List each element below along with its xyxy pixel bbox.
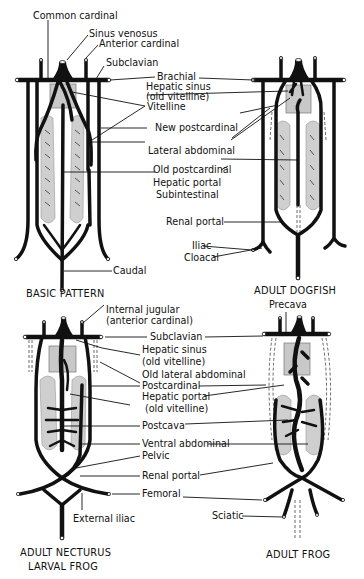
label-renal-portal-bottom: Renal portal xyxy=(142,470,200,481)
title-larval-frog: LARVAL FROG xyxy=(28,561,98,572)
label-precava: Precava xyxy=(269,299,307,310)
label-subclavian-top: Subclavian xyxy=(106,57,158,68)
label-hepatic-portal-bottom: Hepatic portal xyxy=(142,391,210,402)
label-ventral-abdominal: Ventral abdominal xyxy=(142,438,230,449)
frog-panel xyxy=(262,316,344,538)
label-old-vitelline-3: (old vitelline) xyxy=(145,403,208,414)
label-renal-portal-top: Renal portal xyxy=(166,216,224,227)
label-postcava: Postcava xyxy=(142,420,185,431)
title-adult-frog: ADULT FROG xyxy=(266,549,330,560)
pelvic-vein xyxy=(20,478,62,494)
label-pelvic: Pelvic xyxy=(142,450,170,461)
label-hepatic-sinus-2: Hepatic sinus xyxy=(142,344,207,355)
label-old-postcardinal: Old postcardinal xyxy=(153,164,231,175)
postcava-vein xyxy=(61,340,62,450)
title-basic-pattern: BASIC PATTERN xyxy=(26,288,104,299)
necturus-panel xyxy=(16,317,110,540)
label-common-cardinal: Common cardinal xyxy=(33,10,118,21)
label-old-lateral-abdominal: Old lateral abdominal xyxy=(142,369,246,380)
label-cloacal: Cloacal xyxy=(184,252,219,263)
label-lateral-abdominal: Lateral abdominal xyxy=(148,145,235,156)
dogfish-panel xyxy=(251,57,346,280)
venous-system-diagram: Common cardinal Sinus venosus Anterior c… xyxy=(0,0,364,579)
subintestinal-vein xyxy=(62,105,63,290)
sinus-venosus xyxy=(52,62,74,80)
lateral-abdominal-vein xyxy=(16,80,28,259)
femoral-vein xyxy=(62,478,108,494)
sciatic-vein xyxy=(284,490,317,516)
hepatic-portal-vein xyxy=(297,100,300,205)
label-anterior-cardinal-paren: (anterior cardinal) xyxy=(106,315,193,326)
label-new-postcardinal: New postcardinal xyxy=(155,122,238,133)
label-femoral: Femoral xyxy=(142,488,181,499)
label-external-iliac: External iliac xyxy=(73,513,135,524)
title-adult-dogfish: ADULT DOGFISH xyxy=(254,285,336,296)
basic-pattern-panel xyxy=(14,59,110,292)
label-internal-jugular: Internal jugular xyxy=(106,304,179,315)
title-adult-necturus: ADULT NECTURUS xyxy=(20,547,111,558)
left-kidney xyxy=(41,116,55,224)
label-vitelline: Vitelline xyxy=(147,101,186,112)
label-anterior-cardinal: Anterior cardinal xyxy=(99,38,179,49)
label-postcardinal: Postcardinal xyxy=(142,380,200,391)
label-subclavian-bottom: Subclavian xyxy=(150,331,202,342)
label-hepatic-portal-top: Hepatic portal xyxy=(153,177,221,188)
label-caudal: Caudal xyxy=(113,265,146,276)
label-iliac: Iliac xyxy=(192,240,211,251)
label-subintestinal: Subintestinal xyxy=(156,189,219,200)
label-old-vitelline-2: (old vitelline) xyxy=(142,356,205,367)
label-sciatic: Sciatic xyxy=(212,510,244,521)
